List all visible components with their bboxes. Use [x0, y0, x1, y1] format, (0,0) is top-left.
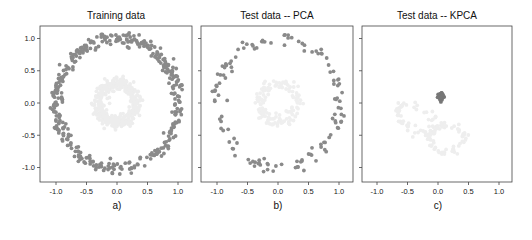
data-point: [149, 157, 153, 161]
data-point: [233, 154, 237, 158]
data-point: [427, 118, 431, 122]
data-point: [310, 153, 314, 157]
data-point: [113, 164, 117, 168]
data-point: [406, 129, 410, 133]
data-point: [295, 159, 299, 163]
data-point: [269, 86, 273, 90]
data-point: [120, 80, 124, 84]
panel-caption: b): [274, 200, 283, 211]
data-point: [397, 108, 401, 112]
data-point: [126, 45, 130, 49]
data-point: [52, 110, 56, 114]
data-point: [62, 132, 66, 136]
data-point: [94, 166, 98, 170]
data-point: [251, 44, 255, 48]
data-point: [292, 80, 296, 84]
data-point: [431, 110, 435, 114]
data-point: [268, 112, 272, 116]
data-point: [266, 168, 270, 172]
y-tick-label: 1.0: [25, 34, 35, 43]
data-point: [451, 149, 455, 153]
data-point: [336, 126, 340, 130]
data-point: [328, 70, 332, 74]
data-point: [452, 124, 456, 128]
data-point: [135, 41, 139, 45]
x-tick-label: 1.0: [494, 187, 504, 196]
data-point: [457, 130, 461, 134]
x-tick-label: -0.5: [241, 187, 254, 196]
data-point: [128, 35, 132, 39]
y-axis-ticks: [359, 39, 362, 168]
data-point: [466, 133, 470, 137]
data-point: [58, 63, 62, 67]
data-point: [226, 127, 230, 131]
data-point: [56, 96, 60, 100]
data-point: [159, 146, 163, 150]
data-point: [294, 166, 298, 170]
data-point: [464, 137, 468, 141]
data-point: [108, 96, 112, 100]
data-point: [55, 124, 59, 128]
data-point: [170, 110, 174, 114]
x-tick-label: -1.0: [211, 187, 224, 196]
data-point: [295, 106, 299, 110]
data-point: [159, 46, 163, 50]
data-point: [436, 124, 440, 128]
data-point: [100, 102, 104, 106]
data-point: [49, 106, 53, 110]
data-point: [174, 67, 178, 71]
data-point: [69, 141, 73, 145]
data-point: [414, 124, 418, 128]
data-point: [230, 70, 234, 74]
data-point: [52, 106, 56, 110]
data-point: [54, 100, 58, 104]
panel-caption: c): [434, 200, 442, 211]
data-point: [89, 47, 93, 51]
data-point: [443, 152, 447, 156]
data-point: [127, 31, 131, 35]
data-point: [291, 109, 295, 113]
data-point: [339, 106, 343, 110]
data-point: [339, 120, 343, 124]
data-point: [161, 58, 165, 62]
x-tick-label: 0.0: [273, 187, 283, 196]
data-point: [444, 148, 448, 152]
data-point: [153, 45, 157, 49]
data-point: [413, 131, 417, 135]
data-point: [164, 63, 168, 67]
data-point: [340, 113, 344, 117]
data-point: [97, 100, 101, 104]
data-point: [57, 116, 61, 120]
data-point: [172, 124, 176, 128]
data-point: [70, 146, 74, 150]
data-point: [61, 98, 65, 102]
data-point: [426, 137, 430, 141]
data-point: [106, 168, 110, 172]
data-point: [427, 125, 431, 129]
data-point: [159, 61, 163, 65]
data-point: [98, 118, 102, 122]
data-point: [265, 121, 269, 125]
data-point: [302, 49, 306, 53]
data-point: [73, 53, 77, 57]
data-point: [57, 81, 61, 85]
data-point: [262, 157, 266, 161]
data-point: [236, 48, 240, 52]
data-point: [278, 117, 282, 121]
x-tick-label: 0.5: [463, 187, 473, 196]
data-point: [284, 80, 288, 84]
data-point: [136, 90, 140, 94]
data-point: [56, 128, 60, 132]
panel-caption: a): [113, 200, 122, 211]
data-point: [110, 85, 114, 89]
data-point: [91, 103, 95, 107]
data-point: [55, 91, 59, 95]
data-point: [132, 80, 136, 84]
data-point: [336, 84, 340, 88]
data-point: [319, 52, 323, 56]
x-axis-ticks: -1.0-0.50.00.51.0: [371, 182, 505, 196]
data-point: [251, 160, 255, 164]
data-point: [246, 158, 250, 162]
data-point: [255, 46, 259, 50]
data-point: [50, 91, 54, 95]
